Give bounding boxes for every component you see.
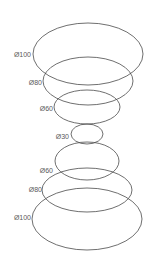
ring-ellipse	[71, 124, 103, 144]
ring-ellipse	[33, 23, 143, 85]
ring-ellipse	[42, 168, 132, 212]
diameter-rings-diagram: Ø100Ø80Ø60Ø30Ø60Ø80Ø100	[0, 0, 153, 267]
ring-ellipse	[32, 188, 142, 250]
diameter-label: Ø30	[56, 133, 69, 140]
ring-ellipse	[54, 90, 120, 124]
ring-ellipse	[55, 142, 119, 180]
ring-ellipse	[43, 57, 133, 105]
diameter-label: Ø100	[14, 214, 31, 221]
diameter-label: Ø80	[29, 186, 42, 193]
rings-group	[32, 23, 143, 250]
diameter-label: Ø100	[14, 51, 31, 58]
labels-group: Ø100Ø80Ø60Ø30Ø60Ø80Ø100	[14, 51, 69, 221]
diameter-label: Ø60	[40, 167, 53, 174]
diameter-label: Ø60	[40, 105, 53, 112]
diameter-label: Ø80	[29, 79, 42, 86]
